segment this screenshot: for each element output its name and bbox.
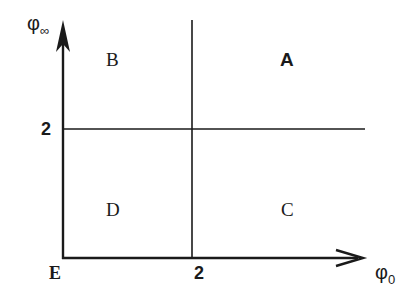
phase-diagram: φ∞ φ0 2 2 E B A D C	[0, 0, 413, 305]
x-axis-subscript: 0	[388, 272, 395, 287]
x-axis-symbol: φ	[375, 261, 388, 283]
y-axis-symbol: φ	[27, 12, 40, 34]
region-b-label: B	[106, 50, 119, 69]
diagram-lines	[0, 0, 413, 305]
origin-label: E	[49, 264, 61, 282]
region-c-label: C	[281, 200, 294, 219]
y-axis-subscript: ∞	[40, 23, 49, 38]
region-a-label: A	[280, 50, 294, 69]
y-axis-label: φ∞	[27, 13, 49, 37]
y-tick-2: 2	[41, 120, 51, 138]
x-tick-2: 2	[194, 264, 204, 282]
region-d-label: D	[106, 200, 120, 219]
x-axis-label: φ0	[375, 262, 395, 286]
